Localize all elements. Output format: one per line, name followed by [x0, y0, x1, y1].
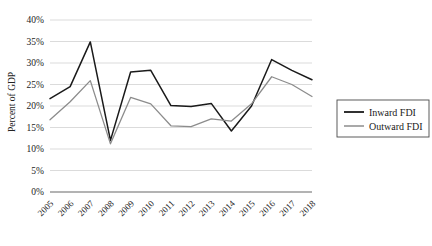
y-axis-title: Percent of GDP [7, 72, 17, 132]
x-axis-tick-label: 2012 [177, 198, 197, 218]
legend: Inward FDIOutward FDI [337, 100, 429, 137]
legend-label-inward-fdi: Inward FDI [369, 107, 416, 118]
x-axis-tick-labels: 2005200620072008200920102011201220132014… [36, 198, 318, 218]
x-axis-tick-label: 2017 [277, 198, 297, 218]
y-axis-tick-label: 0% [31, 187, 44, 197]
legend-label-outward-fdi: Outward FDI [369, 121, 423, 132]
y-axis-tick-label: 35% [27, 37, 45, 47]
x-axis-tick-label: 2007 [76, 198, 96, 218]
x-axis-tick-label: 2006 [56, 198, 76, 218]
y-axis-tick-label: 5% [31, 166, 44, 176]
y-axis-tick-label: 20% [27, 101, 45, 111]
y-axis-tick-label: 15% [27, 123, 45, 133]
y-axis-tick-label: 30% [27, 58, 45, 68]
fdi-line-chart: 0%5%10%15%20%25%30%35%40% 20052006200720… [0, 0, 432, 246]
x-axis-tick-label: 2018 [298, 198, 318, 218]
x-axis-tick-label: 2005 [36, 198, 56, 218]
x-axis-tick-label: 2016 [257, 198, 277, 218]
y-axis-tick-label: 40% [27, 15, 45, 25]
x-axis-tick-label: 2013 [197, 198, 217, 218]
series-group [50, 42, 312, 144]
x-axis-tick-label: 2015 [237, 198, 257, 218]
y-axis-tick-label: 10% [27, 144, 45, 154]
x-axis-tick-label: 2010 [136, 198, 156, 218]
chart-canvas: 0%5%10%15%20%25%30%35%40% 20052006200720… [0, 0, 432, 246]
x-axis-tick-label: 2008 [96, 198, 116, 218]
y-axis-tick-labels: 0%5%10%15%20%25%30%35%40% [27, 15, 45, 197]
x-axis-tick-label: 2011 [157, 198, 177, 218]
x-axis-tick-label: 2014 [217, 198, 237, 218]
series-line-outward-fdi [50, 77, 312, 144]
x-axis-tick-label: 2009 [116, 198, 136, 218]
y-axis-tick-label: 25% [27, 80, 45, 90]
